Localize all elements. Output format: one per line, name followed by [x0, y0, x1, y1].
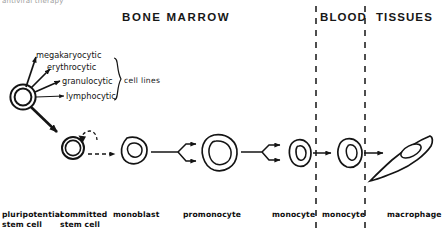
lineage-arrow-granulocytic [35, 81, 60, 92]
lineage-arrow-megakaryocytic [26, 57, 36, 87]
cell-lines-bracket [114, 58, 121, 100]
lineage-arrow-monocytic [31, 107, 57, 132]
arrow-promonocyte-to-monocyte [241, 145, 280, 160]
arrow-monoblast-to-promonocyte [151, 144, 196, 161]
cell-macrophage [370, 136, 432, 181]
cell-committed-stem-cell [62, 137, 84, 159]
cell-monocyte-marrow [289, 140, 311, 167]
lineage-arrow-lymphocytic [36, 96, 64, 97]
cell-monoblast [121, 137, 147, 164]
lineage-arrow-erythrocytic [31, 69, 50, 88]
cell-monocyte-blood [338, 139, 362, 168]
cell-promonocyte [202, 135, 237, 171]
